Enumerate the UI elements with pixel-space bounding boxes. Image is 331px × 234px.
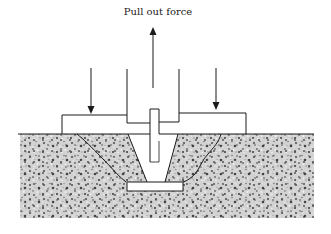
left-load-arrow (88, 68, 95, 114)
pull-out-force-arrow (150, 27, 157, 88)
anchor-head-plate (127, 182, 183, 191)
right-load-arrow (213, 68, 220, 110)
pull-out-test-diagram: Pull out force (0, 0, 331, 234)
diagram-canvas (0, 0, 331, 234)
anchor-bolt-fill (150, 109, 159, 162)
pull-out-force-label: Pull out force (0, 6, 316, 17)
